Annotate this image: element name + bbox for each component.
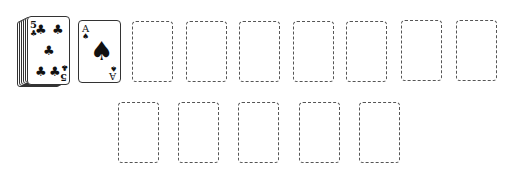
- clubs-icon: ♣: [49, 65, 61, 78]
- bottom-slot-4[interactable]: [299, 102, 340, 163]
- top-slot-1[interactable]: [132, 21, 173, 82]
- waste-top-card[interactable]: A ♠ ♠ ♠ A: [78, 20, 121, 83]
- card-rank: A: [109, 71, 116, 81]
- top-slot-6[interactable]: [401, 20, 442, 81]
- bottom-slot-5[interactable]: [359, 102, 400, 163]
- bottom-slot-1[interactable]: [118, 102, 159, 163]
- stock-top-card[interactable]: 5 ♣ ♣ ♣ ♣ ♣ ♣ ♣ 5: [27, 16, 70, 85]
- spades-icon: ♠: [82, 33, 89, 41]
- clubs-icon: ♣: [35, 65, 47, 78]
- bottom-slot-2[interactable]: [178, 102, 219, 163]
- top-slot-4[interactable]: [293, 21, 334, 82]
- top-slot-7[interactable]: [456, 20, 497, 81]
- clubs-icon: ♣: [35, 23, 47, 36]
- card-rank: 5: [60, 72, 67, 82]
- clubs-icon: ♣: [43, 44, 55, 57]
- top-slot-3[interactable]: [239, 21, 280, 82]
- top-slot-2[interactable]: [186, 21, 227, 82]
- spades-icon: ♠: [90, 38, 113, 64]
- top-slot-5[interactable]: [346, 21, 387, 82]
- bottom-slot-3[interactable]: [238, 102, 279, 163]
- clubs-icon: ♣: [61, 63, 68, 71]
- clubs-icon: ♣: [52, 23, 64, 36]
